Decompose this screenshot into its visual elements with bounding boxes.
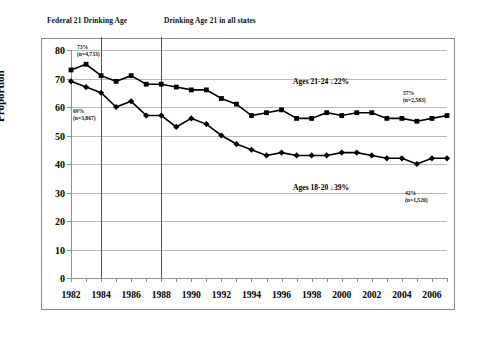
plot-area: 01020304050607080 1982198419861988199019…: [71, 50, 447, 278]
callout-pct: 73%: [77, 44, 100, 51]
x-tick-mark: [432, 278, 433, 282]
callout-end-ages-21-24: 57% (n=2,583): [403, 90, 426, 104]
data-point-marker: [83, 84, 89, 90]
x-tick-label: 2006: [422, 289, 441, 300]
callout-start-ages-21-24: 73% (n=4,733): [77, 44, 100, 58]
data-point-marker: [188, 115, 194, 121]
data-point-marker: [233, 141, 239, 147]
x-tick-mark: [251, 278, 252, 282]
series-plot: [71, 50, 447, 278]
data-point-marker: [204, 88, 209, 93]
y-tick-label: 40: [55, 159, 65, 170]
x-axis-line: [71, 278, 447, 279]
data-point-marker: [369, 110, 374, 115]
x-tick-mark: [176, 278, 177, 282]
annotation-all-states-drinking-age: Drinking Age 21 in all states: [164, 16, 256, 25]
data-point-marker: [339, 113, 344, 118]
x-tick-mark: [146, 278, 147, 282]
callout-n: (n=1,520): [405, 197, 428, 204]
x-tick-mark: [131, 278, 132, 282]
data-point-marker: [69, 68, 74, 73]
data-point-marker: [309, 152, 315, 158]
x-tick-mark: [342, 278, 343, 282]
data-point-marker: [114, 79, 119, 84]
data-point-marker: [354, 110, 359, 115]
data-point-marker: [324, 152, 330, 158]
data-point-marker: [234, 102, 239, 107]
data-point-marker: [144, 82, 149, 87]
data-point-marker: [294, 152, 300, 158]
y-tick-label: 80: [55, 45, 65, 56]
data-point-marker: [294, 116, 299, 121]
callout-pct: 42%: [405, 190, 428, 197]
callout-pct: 57%: [403, 90, 426, 97]
x-tick-label: 1990: [182, 289, 201, 300]
y-tick-label: 20: [55, 216, 65, 227]
callout-n: (n=3,867): [73, 115, 96, 122]
x-tick-mark: [417, 278, 418, 282]
y-tick-label: 60: [55, 102, 65, 113]
data-point-marker: [369, 152, 375, 158]
x-tick-mark: [357, 278, 358, 282]
data-point-marker: [415, 119, 420, 124]
x-tick-mark: [206, 278, 207, 282]
callout-n: (n=4,733): [77, 51, 100, 58]
x-tick-label: 1988: [152, 289, 171, 300]
x-tick-mark: [116, 278, 117, 282]
data-point-marker: [430, 116, 435, 121]
data-point-marker: [159, 82, 164, 87]
x-tick-mark: [221, 278, 222, 282]
data-point-marker: [324, 110, 329, 115]
callout-pct: 69%: [73, 108, 96, 115]
x-tick-label: 1996: [272, 289, 291, 300]
data-point-marker: [278, 150, 284, 156]
y-tick-label: 10: [55, 244, 65, 255]
data-point-marker: [129, 73, 134, 78]
series-line-ages-21-24: [71, 64, 447, 121]
data-point-marker: [249, 113, 254, 118]
data-point-marker: [384, 116, 389, 121]
x-tick-mark: [372, 278, 373, 282]
callout-end-ages-18-20: 42% (n=1,520): [405, 190, 428, 204]
data-point-marker: [445, 113, 450, 118]
data-point-marker: [248, 147, 254, 153]
x-tick-label: 2004: [392, 289, 411, 300]
x-tick-label: 1992: [212, 289, 231, 300]
x-tick-mark: [297, 278, 298, 282]
y-axis-title: Proportion: [0, 70, 6, 122]
x-tick-mark: [447, 278, 448, 282]
data-point-marker: [399, 155, 405, 161]
data-point-marker: [429, 155, 435, 161]
data-point-marker: [219, 96, 224, 101]
data-point-marker: [354, 150, 360, 156]
x-tick-label: 1994: [242, 289, 261, 300]
data-point-marker: [99, 73, 104, 78]
x-tick-mark: [267, 278, 268, 282]
x-tick-label: 1982: [61, 289, 80, 300]
data-point-marker: [263, 152, 269, 158]
y-tick-label: 0: [60, 273, 65, 284]
annotation-federal-drinking-age: Federal 21 Drinking Age: [47, 16, 127, 25]
data-point-marker: [309, 116, 314, 121]
x-tick-mark: [161, 278, 162, 282]
data-point-marker: [189, 88, 194, 93]
data-point-marker: [174, 85, 179, 90]
x-tick-mark: [191, 278, 192, 282]
data-point-marker: [279, 107, 284, 112]
x-tick-mark: [312, 278, 313, 282]
y-tick-label: 70: [55, 73, 65, 84]
callout-n: (n=2,583): [403, 97, 426, 104]
data-point-marker: [84, 62, 89, 67]
x-tick-mark: [71, 278, 72, 282]
x-tick-mark: [282, 278, 283, 282]
data-point-marker: [414, 161, 420, 167]
x-tick-mark: [327, 278, 328, 282]
x-tick-mark: [402, 278, 403, 282]
series-label-ages-21-24: Ages 21-24 ↓22%: [293, 77, 349, 86]
x-tick-mark: [86, 278, 87, 282]
data-point-marker: [384, 155, 390, 161]
x-tick-label: 2000: [332, 289, 351, 300]
series-line-ages-18-20: [71, 81, 447, 164]
x-tick-mark: [101, 278, 102, 282]
y-tick-label: 50: [55, 130, 65, 141]
